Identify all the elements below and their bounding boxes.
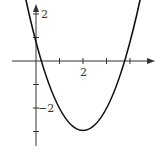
y-axis-arrow-icon [33, 4, 39, 12]
y-tick-label-neg2: −2 [38, 102, 54, 115]
y-tick-label-2: 2 [41, 8, 48, 21]
y-axis [33, 4, 39, 146]
x-tick-label-2: 2 [80, 66, 87, 79]
parabola-chart: 2 2 −2 [0, 0, 163, 155]
x-axis-arrow-icon [147, 58, 155, 64]
